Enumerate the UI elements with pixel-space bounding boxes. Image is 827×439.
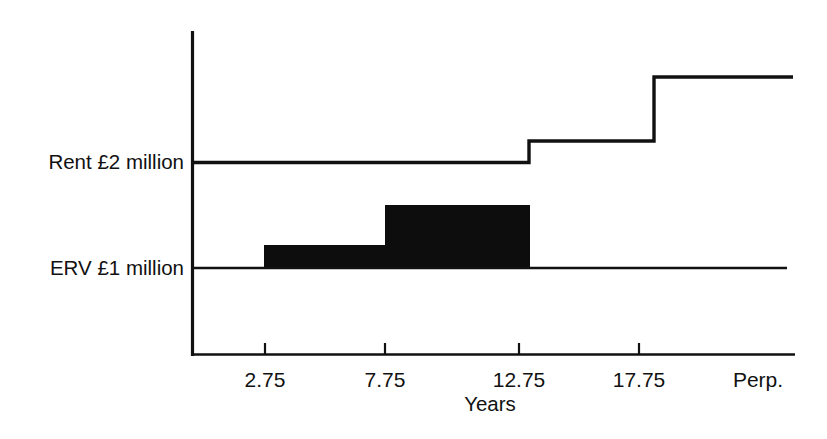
- erv-level-label: ERV £1 million: [18, 258, 184, 279]
- x-axis-tick-label-1: 7.75: [335, 369, 435, 390]
- rent-step-line: [192, 77, 793, 163]
- x-axis-tick-label-0: 2.75: [215, 369, 315, 390]
- x-axis-title: Years: [400, 394, 580, 415]
- shortfall-segment-1: [264, 245, 385, 269]
- x-axis-tick-label-3: 17.75: [584, 369, 694, 390]
- x-axis-tick-label-2: 12.75: [464, 369, 574, 390]
- chart-container: Rent £2 million ERV £1 million 2.75 7.75…: [0, 0, 827, 439]
- rent-level-label: Rent £2 million: [18, 152, 184, 173]
- shortfall-segment-2: [385, 205, 530, 269]
- shortfall-shaded-region: [264, 205, 530, 269]
- x-axis-tick-label-4: Perp.: [708, 369, 808, 390]
- x-axis-ticks: [265, 343, 639, 354]
